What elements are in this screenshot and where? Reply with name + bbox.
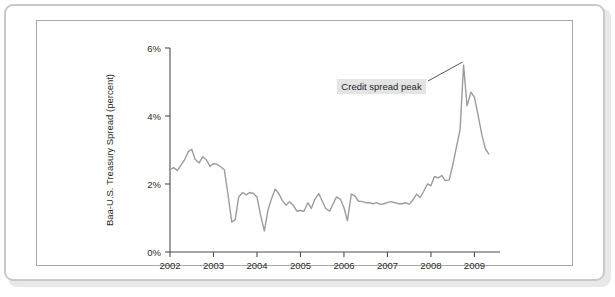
x-tick-label: 2009 bbox=[464, 260, 485, 271]
x-tick-label: 2005 bbox=[290, 260, 311, 271]
data-series-group bbox=[170, 65, 489, 231]
x-tick-label: 2003 bbox=[203, 260, 224, 271]
y-tick-label: 2% bbox=[147, 179, 161, 190]
x-tick-label: 2007 bbox=[377, 260, 398, 271]
axis-lines bbox=[170, 48, 500, 252]
y-tick-label: 6% bbox=[147, 43, 161, 54]
annotation-group: Credit spread peak bbox=[337, 62, 463, 94]
x-tick-label: 2008 bbox=[420, 260, 441, 271]
x-tick-label: 2002 bbox=[159, 260, 180, 271]
annotation-label: Credit spread peak bbox=[341, 81, 422, 92]
y-tick-label: 4% bbox=[147, 111, 161, 122]
y-axis-ticks: 0%2%4%6% bbox=[147, 43, 170, 258]
series-line bbox=[170, 65, 489, 231]
line-chart: Baa-U.S. Treasury Spread (percent) 0%2%4… bbox=[0, 0, 615, 297]
x-axis-ticks: 20022003200420052006200720082009 bbox=[159, 252, 485, 271]
y-axis-title: Baa-U.S. Treasury Spread (percent) bbox=[104, 74, 115, 226]
figure-root: Baa-U.S. Treasury Spread (percent) 0%2%4… bbox=[0, 0, 615, 297]
x-tick-label: 2004 bbox=[246, 260, 267, 271]
x-tick-label: 2006 bbox=[333, 260, 354, 271]
y-tick-label: 0% bbox=[147, 247, 161, 258]
annotation-leader-line bbox=[428, 62, 463, 81]
